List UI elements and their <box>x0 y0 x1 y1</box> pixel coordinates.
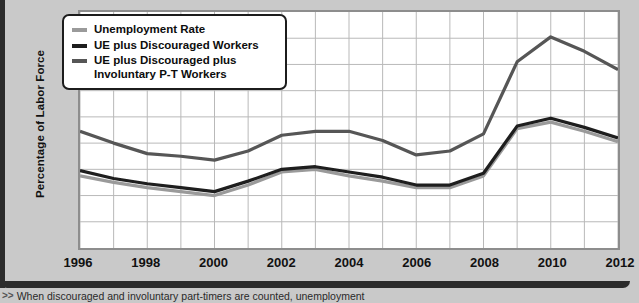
frame-left-edge <box>0 0 5 288</box>
legend-label: Unemployment Rate <box>94 23 205 37</box>
x-tick-label: 1996 <box>48 256 108 269</box>
chart-legend: Unemployment RateUE plus Discouraged Wor… <box>62 14 287 90</box>
x-tick-label: 1998 <box>116 256 176 269</box>
y-axis-title: Percentage of Labor Force <box>34 24 46 224</box>
figure-frame: Percentage of Labor Force 02468101214161… <box>0 0 630 288</box>
x-tick-label: 2002 <box>251 256 311 269</box>
x-tick-label: 2008 <box>455 256 515 269</box>
x-tick-label: 2010 <box>522 256 582 269</box>
x-tick-label: 2006 <box>387 256 447 269</box>
legend-swatch-icon <box>72 44 87 48</box>
chart-caption: >> When discouraged and involuntary part… <box>0 291 630 303</box>
legend-entry: UE plus Discouraged plus Involuntary P-T… <box>72 54 277 81</box>
caption-marker-icon: >> <box>2 291 14 301</box>
legend-label: UE plus Discouraged Workers <box>94 39 259 53</box>
legend-swatch-icon <box>72 28 87 32</box>
legend-entry: UE plus Discouraged Workers <box>72 39 277 53</box>
caption-text: When discouraged and involuntary part-ti… <box>17 291 365 302</box>
frame-bottom-edge <box>0 281 630 288</box>
legend-label: UE plus Discouraged plus Involuntary P-T… <box>94 54 237 81</box>
legend-entry: Unemployment Rate <box>72 23 277 37</box>
legend-swatch-icon <box>72 59 87 63</box>
x-tick-label: 2000 <box>184 256 244 269</box>
x-tick-label: 2004 <box>319 256 379 269</box>
x-tick-label: 2012 <box>590 256 639 269</box>
